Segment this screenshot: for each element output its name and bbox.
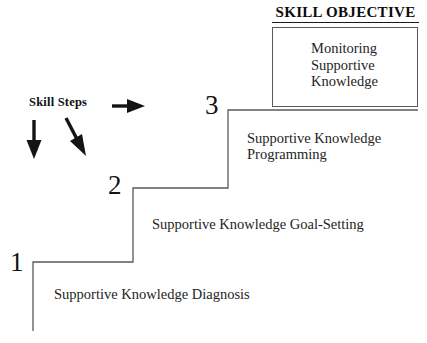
skill-steps-label: Skill Steps — [29, 95, 87, 110]
skill-objective-body: Monitoring Supportive Knowledge — [311, 40, 378, 90]
step-number-1: 1 — [10, 249, 24, 276]
diagram-canvas: Skill Steps 1 2 3 Supportive Knowledge D… — [0, 0, 427, 343]
step-number-3: 3 — [205, 92, 219, 119]
down-arrow-diagonal-icon — [66, 118, 86, 156]
skill-objective-box: Monitoring Supportive Knowledge — [272, 27, 418, 107]
down-arrow-left-icon — [27, 120, 42, 159]
step-caption-2: Supportive Knowledge Goal-Setting — [152, 216, 364, 232]
step-caption-1: Supportive Knowledge Diagnosis — [54, 286, 250, 302]
right-arrow-icon — [112, 99, 145, 113]
step-caption-3: Supportive Knowledge Programming — [247, 130, 381, 162]
skill-objective-heading: SKILL OBJECTIVE — [272, 4, 419, 23]
step-number-2: 2 — [108, 172, 122, 199]
